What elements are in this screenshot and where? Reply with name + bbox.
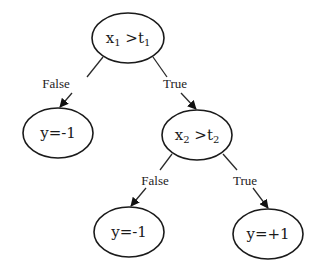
node-leaf-bottom-left: y=-1 — [94, 207, 164, 257]
edge-label-true: True — [233, 173, 257, 188]
node-leaf-bottom-right: y=+1 — [233, 209, 303, 259]
edge-inner-false: False — [131, 154, 172, 206]
node-root-label: x1 >t1 — [106, 29, 151, 48]
decision-tree-diagram: False True False True x1 >t1 y=-1 x2 >t2… — [0, 0, 322, 276]
edge-inner-true: True — [223, 154, 268, 208]
node-inner-split: x2 >t2 — [162, 110, 232, 160]
leaf-label: y=-1 — [39, 124, 76, 142]
edge-label-false: False — [42, 76, 70, 91]
leaf-label: y=-1 — [110, 223, 147, 241]
leaf-label: y=+1 — [245, 225, 289, 243]
edge-root-true: True — [153, 57, 196, 109]
node-inner-label: x2 >t2 — [175, 126, 220, 145]
edge-label-false: False — [141, 173, 169, 188]
node-leaf-left: y=-1 — [23, 108, 93, 158]
edge-label-true: True — [163, 76, 187, 91]
edge-root-false: False — [42, 57, 103, 107]
node-root-split: x1 >t1 — [92, 13, 164, 63]
